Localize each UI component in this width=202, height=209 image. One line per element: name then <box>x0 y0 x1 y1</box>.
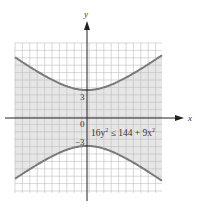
y-axis-arrow-icon <box>84 21 90 30</box>
eq-part: ≤ 144 + 9x <box>108 128 152 138</box>
inequality-label: 16y2 ≤ 144 + 9x2 <box>91 127 155 138</box>
x-axis-label: x <box>187 113 192 123</box>
eq-part: 16y <box>91 128 106 138</box>
origin-label: 0 <box>80 119 85 129</box>
x-axis-arrow-icon <box>175 115 184 121</box>
y-axis-label: y <box>83 9 88 19</box>
tick-label-3: 3 <box>80 92 85 102</box>
tick-label-neg3: −3 <box>75 137 85 147</box>
hyperbola-graph: x y 0 3 −3 16y2 ≤ 144 + 9x2 <box>0 0 202 209</box>
eq-sup: 2 <box>152 127 155 133</box>
